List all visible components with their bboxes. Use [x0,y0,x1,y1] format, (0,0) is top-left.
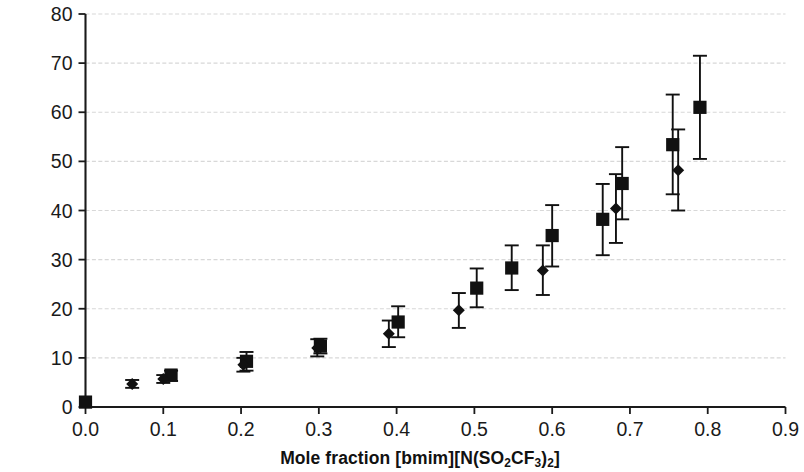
data-point-square [596,213,609,226]
y-tick-label: 40 [51,200,73,222]
data-point-square [470,282,483,295]
x-tick-label: 0.3 [305,418,332,440]
y-tick-label: 30 [51,249,73,271]
y-tick-label: 80 [51,3,73,25]
data-point-diamond [610,203,622,215]
data-point-square [79,395,92,408]
x-tick-label: 0.5 [461,418,488,440]
x-tick-label: 0.7 [616,418,643,440]
x-tick-label: 0.6 [539,418,566,440]
scatter-plot: 010203040506070800.00.10.20.30.40.50.60.… [0,0,804,472]
data-point-diamond [672,164,684,176]
x-axis-title: Mole fraction [bmim][N(SO2CF3)2] [0,448,804,469]
x-tick-label: 0.8 [694,418,721,440]
data-point-square [392,315,405,328]
data-point-square [666,138,679,151]
data-point-square [505,261,518,274]
data-point-square [616,177,629,190]
data-point-diamond [453,304,465,316]
x-tick-label: 0.4 [383,418,410,440]
y-tick-label: 0 [62,396,73,418]
x-tick-label: 0.0 [72,418,99,440]
data-point-square [546,229,559,242]
chart-figure: 010203040506070800.00.10.20.30.40.50.60.… [0,0,804,472]
y-tick-label: 60 [51,101,73,123]
x-tick-label: 0.2 [228,418,255,440]
x-tick-label: 0.9 [772,418,799,440]
y-tick-label: 20 [51,298,73,320]
y-tick-label: 10 [51,347,73,369]
data-point-square [693,101,706,114]
y-tick-label: 70 [51,52,73,74]
y-tick-label: 50 [51,150,73,172]
x-tick-label: 0.1 [150,418,177,440]
